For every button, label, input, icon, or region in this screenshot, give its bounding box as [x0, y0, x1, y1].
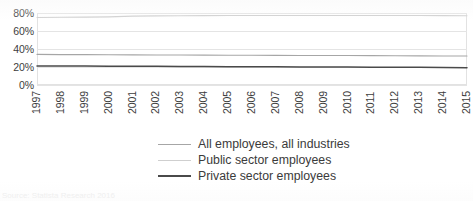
- x-axis-tick-label: 2000: [103, 74, 114, 114]
- x-axis-tick-label: 2012: [389, 74, 400, 114]
- x-axis-tick-label: 2001: [127, 74, 138, 114]
- x-axis-tick-label: 2011: [365, 74, 376, 114]
- legend-line-swatch: [158, 144, 191, 145]
- x-axis-tick-label: 2015: [461, 74, 472, 114]
- series-line: [37, 15, 467, 17]
- y-axis-tick-label: 60%: [0, 26, 34, 37]
- legend-item-label: Private sector employees: [198, 169, 336, 183]
- x-axis-tick-label: 2002: [150, 74, 161, 114]
- x-axis-tick-label: 2004: [198, 74, 209, 114]
- y-axis-tick-label: 0%: [0, 80, 34, 91]
- x-axis-tick-label: 2005: [222, 74, 233, 114]
- y-axis-tick-label: 80%: [0, 8, 34, 19]
- legend-line-swatch: [158, 175, 191, 177]
- x-axis-tick-label: 1997: [31, 74, 42, 114]
- legend-item[interactable]: Public sector employees: [0, 152, 473, 168]
- x-axis-tick-label: 2003: [174, 74, 185, 114]
- legend-item-label: All employees, all industries: [198, 137, 350, 151]
- y-axis-tick-label: 40%: [0, 44, 34, 55]
- line-chart-figure: 80%60%40%20%0% 1997199819992000200120022…: [0, 0, 473, 201]
- x-axis-tick-label: 2009: [318, 74, 329, 114]
- chart-legend: All employees, all industriesPublic sect…: [0, 136, 473, 184]
- x-axis-tick-label: 2008: [294, 74, 305, 114]
- source-note: Source: Statista Research 2016: [2, 191, 202, 199]
- x-axis-tick-label: 2006: [246, 74, 257, 114]
- x-axis: 1997199819992000200120022003200420052006…: [37, 88, 467, 128]
- series-line: [37, 54, 467, 56]
- y-axis-tick-label: 20%: [0, 62, 34, 73]
- x-axis-tick-label: 2007: [270, 74, 281, 114]
- x-axis-tick-label: 2014: [437, 74, 448, 114]
- series-line: [37, 66, 467, 68]
- x-axis-tick-label: 2013: [413, 74, 424, 114]
- x-axis-tick-label: 2010: [342, 74, 353, 114]
- x-axis-tick-label: 1999: [79, 74, 90, 114]
- legend-line-swatch: [158, 160, 191, 161]
- legend-item[interactable]: All employees, all industries: [0, 136, 473, 152]
- legend-item[interactable]: Private sector employees: [0, 168, 473, 184]
- x-axis-tick-label: 1998: [55, 74, 66, 114]
- legend-item-label: Public sector employees: [198, 153, 331, 167]
- y-axis: 80%60%40%20%0%: [0, 13, 34, 85]
